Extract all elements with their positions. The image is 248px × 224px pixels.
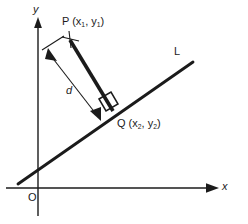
figure-canvas <box>0 0 248 224</box>
point-p-label-prefix: P (x <box>62 15 81 27</box>
geometry-figure: y x O L P (x1, y1) Q (x2, y2) d <box>0 0 248 224</box>
point-q-label-mid: , y <box>142 117 154 129</box>
x-axis-label: x <box>222 181 228 192</box>
point-p-label-suffix: ) <box>101 15 105 27</box>
y-axis <box>34 17 42 216</box>
origin-label: O <box>28 192 37 203</box>
x-axis-arrowhead <box>206 183 219 192</box>
distance-label: d <box>66 85 72 96</box>
y-axis-label: y <box>33 4 39 15</box>
distance-tick-upper <box>42 36 64 50</box>
point-p-label-mid: , y <box>85 15 97 27</box>
point-q-label-prefix: Q (x <box>117 117 138 129</box>
distance-arrowhead-upper <box>45 48 57 61</box>
point-q-label-suffix: ) <box>157 117 161 129</box>
distance-shaft <box>51 56 96 114</box>
point-q-label: Q (x2, y2) <box>117 118 161 131</box>
line-l <box>18 62 193 184</box>
segment-pq <box>70 40 113 111</box>
line-l-label: L <box>174 46 180 57</box>
point-p-label: P (x1, y1) <box>62 16 104 29</box>
y-axis-arrowhead <box>34 17 42 28</box>
point-p-marker <box>62 31 79 48</box>
